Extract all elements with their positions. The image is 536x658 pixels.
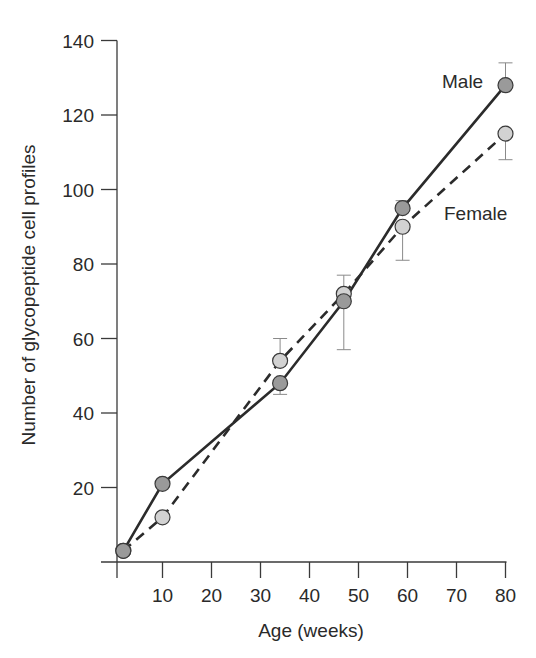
x-tick-label: 40 (299, 585, 320, 606)
x-tick-label: 20 (201, 585, 222, 606)
female-marker (498, 126, 513, 141)
male-marker (155, 476, 170, 491)
male-marker (498, 78, 513, 93)
y-tick-label: 20 (73, 478, 94, 499)
y-tick-label: 100 (62, 180, 94, 201)
x-axis-title: Age (weeks) (258, 620, 364, 641)
female-series-label: Female (444, 203, 507, 224)
y-tick-label: 60 (73, 329, 94, 350)
y-tick-label: 120 (62, 105, 94, 126)
x-tick-label: 30 (250, 585, 271, 606)
male-marker (273, 376, 288, 391)
chart-canvas: 204060801001201401020304050607080 Male F… (0, 0, 536, 658)
x-tick-label: 60 (397, 585, 418, 606)
male-series-label: Male (442, 71, 483, 92)
female-marker (395, 219, 410, 234)
female-line (123, 134, 505, 551)
series-lines (123, 85, 505, 551)
line-chart: 204060801001201401020304050607080 Male F… (0, 0, 536, 658)
male-marker (336, 294, 351, 309)
female-marker (273, 353, 288, 368)
y-axis-title: Number of glycopeptide cell profiles (18, 145, 39, 446)
y-tick-label: 80 (73, 254, 94, 275)
axes: 204060801001201401020304050607080 (62, 31, 516, 607)
male-marker (395, 201, 410, 216)
y-tick-label: 140 (62, 31, 94, 52)
y-tick-label: 40 (73, 403, 94, 424)
female-marker (155, 510, 170, 525)
x-tick-label: 70 (446, 585, 467, 606)
male-marker (116, 543, 131, 558)
x-tick-label: 10 (152, 585, 173, 606)
male-line (123, 85, 505, 551)
series-markers (116, 78, 513, 559)
x-tick-label: 80 (495, 585, 516, 606)
x-tick-label: 50 (348, 585, 369, 606)
